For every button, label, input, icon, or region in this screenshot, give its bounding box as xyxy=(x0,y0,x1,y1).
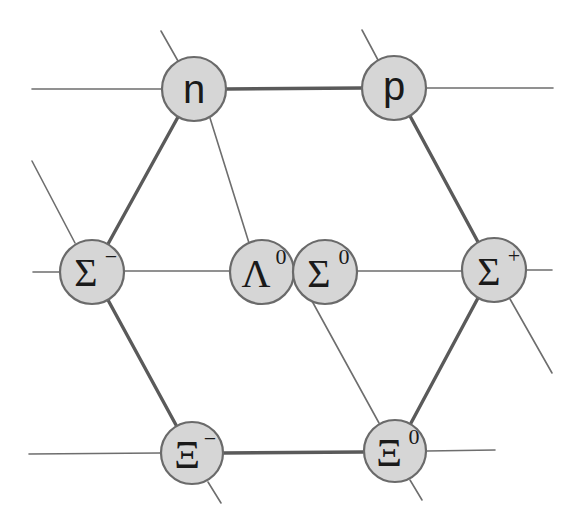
diag-top-to-p xyxy=(362,30,378,60)
node-label: Λ xyxy=(241,251,270,296)
bottom-horizontal-line-left xyxy=(29,453,160,454)
node-superscript: + xyxy=(508,243,520,268)
diag-left-to-sigma-minus xyxy=(32,161,75,243)
edge-sigma-plus-xi-zero xyxy=(411,298,478,423)
node-label: Ξ xyxy=(174,432,200,477)
edge-xi-minus-sigma-minus xyxy=(108,300,176,425)
edge-xi-zero-xi-minus xyxy=(224,452,363,453)
node-label: Σ xyxy=(74,250,97,295)
node-label: Σ xyxy=(307,251,330,296)
node-label: Ξ xyxy=(376,430,402,475)
edge-sigma-minus-n xyxy=(108,117,178,244)
node-label: n xyxy=(183,67,205,111)
node-sigma-minus: Σ − xyxy=(60,240,124,304)
node-superscript: 0 xyxy=(339,244,350,269)
node-n: n xyxy=(162,57,226,121)
node-xi-zero: Ξ 0 xyxy=(364,420,426,482)
node-sigma-zero: Σ 0 xyxy=(293,240,357,304)
diag-n-to-lambda xyxy=(210,118,249,243)
baryon-octet-diagram: n p Σ − Λ 0 Σ 0 Σ + Ξ − Ξ 0 xyxy=(0,0,582,522)
edge-p-sigma-plus xyxy=(410,116,478,242)
node-label: p xyxy=(383,64,405,108)
diag-xi-zero-down xyxy=(410,480,422,500)
node-label: Σ xyxy=(477,249,500,294)
node-p: p xyxy=(362,56,426,120)
node-superscript: − xyxy=(105,244,117,269)
bottom-horizontal-line-right xyxy=(427,450,495,451)
edge-n-p xyxy=(226,88,362,89)
diag-sigma-zero-to-xi-zero xyxy=(312,301,379,423)
node-xi-minus: Ξ − xyxy=(161,422,223,484)
node-sigma-plus: Σ + xyxy=(462,238,526,302)
node-superscript: 0 xyxy=(409,424,420,449)
diag-top-left-to-n xyxy=(161,31,178,61)
node-superscript: − xyxy=(204,426,216,451)
node-lambda-zero: Λ 0 xyxy=(230,240,294,304)
node-superscript: 0 xyxy=(276,244,287,269)
diag-xi-minus-down xyxy=(208,482,221,503)
diag-sigma-plus-down-right xyxy=(510,299,552,373)
